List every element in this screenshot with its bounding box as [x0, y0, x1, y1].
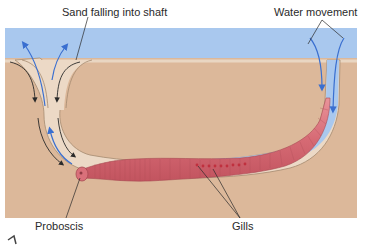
label-sand-falling: Sand falling into shaft	[62, 6, 167, 18]
label-water-movement: Water movement	[274, 6, 357, 18]
label-proboscis: Proboscis	[35, 220, 83, 232]
lugworm-burrow-diagram: Sand falling into shaft Water movement P…	[0, 0, 365, 247]
label-gills: Gills	[232, 220, 253, 232]
water-layer	[5, 28, 357, 60]
diagram-illustration	[0, 0, 365, 247]
